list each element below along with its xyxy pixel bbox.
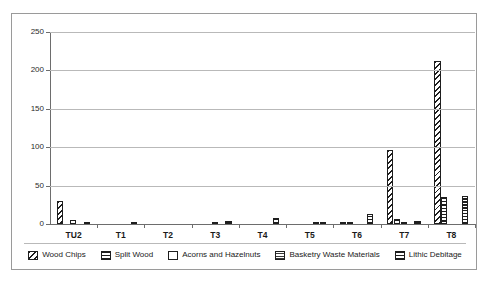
category-label-t2: T2 — [144, 230, 191, 241]
bar-t6-wood-chips — [340, 222, 346, 224]
category-label-t3: T3 — [192, 230, 239, 241]
category-axis-tick-mark — [428, 224, 429, 228]
category-axis-tick-mark — [239, 224, 240, 228]
value-axis-tick-label: 0 — [40, 219, 44, 228]
legend-label: Acorns and Hazelnuts — [182, 250, 260, 260]
category-label-t4: T4 — [239, 230, 286, 241]
value-axis-tick-mark — [46, 224, 50, 225]
category-label-t5: T5 — [286, 230, 333, 241]
legend-item-lithic-debitage[interactable]: Lithic Debitage — [395, 250, 462, 260]
value-axis-tick-label: 50 — [35, 181, 44, 190]
bar-tu2-acorns-and-hazelnuts — [70, 220, 76, 224]
category-axis-tick-mark — [144, 224, 145, 228]
bar-t5-basketry-waste-materials — [313, 222, 319, 224]
category-axis-tick-mark — [333, 224, 334, 228]
category-label-tu2: TU2 — [50, 230, 97, 241]
legend-swatch-icon — [28, 251, 38, 260]
legend-item-acorns-and-hazelnuts[interactable]: Acorns and Hazelnuts — [168, 250, 260, 260]
category-axis-tick-mark — [286, 224, 287, 228]
legend-swatch-icon — [275, 251, 285, 260]
legend-item-split-wood[interactable]: Split Wood — [101, 250, 154, 260]
bar-t7-split-wood — [394, 219, 400, 224]
category-axis-line — [50, 224, 476, 225]
gridline — [50, 32, 475, 33]
bar-t8-split-wood — [441, 197, 447, 224]
category-axis-tick-mark — [475, 224, 476, 228]
category-label-t6: T6 — [333, 230, 380, 241]
bar-t7-wood-chips — [387, 150, 393, 224]
bar-t4-lithic-debitage — [273, 218, 279, 224]
value-axis-tick-label: 250 — [31, 27, 44, 36]
bar-tu2-wood-chips — [57, 201, 63, 224]
legend-label: Lithic Debitage — [409, 250, 462, 260]
bar-t6-split-wood — [347, 222, 353, 224]
legend-item-wood-chips[interactable]: Wood Chips — [28, 250, 85, 260]
bar-t8-lithic-debitage — [462, 196, 468, 224]
bar-tu2-lithic-debitage — [84, 222, 90, 224]
gridline — [50, 186, 475, 187]
legend-item-basketry-waste-materials[interactable]: Basketry Waste Materials — [275, 250, 379, 260]
chart-frame: 050100150200250 TU2T1T2T3T4T5T6T7T8 Wood… — [11, 13, 477, 270]
chart-legend: Wood ChipsSplit WoodAcorns and Hazelnuts… — [24, 246, 466, 264]
bar-t3-lithic-debitage — [225, 221, 231, 224]
legend-swatch-icon — [101, 251, 111, 260]
bar-t7-acorns-and-hazelnuts — [401, 222, 407, 224]
category-axis-tick-mark — [381, 224, 382, 228]
gridline — [50, 147, 475, 148]
legend-label: Basketry Waste Materials — [289, 250, 379, 260]
category-label-t1: T1 — [97, 230, 144, 241]
plot-area — [50, 32, 475, 224]
gridline — [50, 70, 475, 71]
category-axis-tick-mark — [97, 224, 98, 228]
legend-swatch-icon — [168, 251, 178, 260]
gridline — [50, 109, 475, 110]
legend-divider — [24, 243, 466, 244]
bar-t1-lithic-debitage — [131, 222, 137, 224]
bar-t7-lithic-debitage — [414, 221, 420, 224]
legend-label: Wood Chips — [42, 250, 85, 260]
legend-swatch-icon — [395, 251, 405, 260]
value-axis-tick-label: 100 — [31, 142, 44, 151]
category-label-t7: T7 — [381, 230, 428, 241]
category-axis-tick-mark — [192, 224, 193, 228]
bar-t8-wood-chips — [434, 61, 440, 224]
legend-label: Split Wood — [115, 250, 154, 260]
category-label-t8: T8 — [428, 230, 475, 241]
value-axis-tick-label: 200 — [31, 65, 44, 74]
bar-t3-acorns-and-hazelnuts — [212, 222, 218, 224]
value-axis-tick-label: 150 — [31, 104, 44, 113]
bar-t5-lithic-debitage — [320, 222, 326, 224]
bar-t6-lithic-debitage — [367, 214, 373, 224]
